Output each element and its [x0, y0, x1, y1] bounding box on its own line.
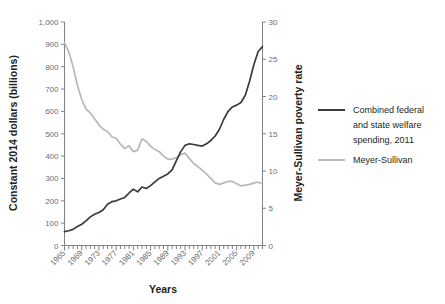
right-tick-label: 10 [269, 167, 278, 176]
x-tick-label: 1985 [135, 248, 154, 267]
x-tick-label: 2009 [238, 248, 257, 267]
chart-container: 01002003004005006007008009001,000 051015… [0, 0, 445, 304]
x-tick-label: 2005 [221, 248, 240, 267]
left-tick-label: 900 [45, 40, 59, 49]
x-tick-label: 1973 [83, 248, 102, 267]
series-line-meyer-sullivan [65, 43, 263, 186]
left-tick-label: 600 [45, 107, 59, 116]
x-tick-label: 2001 [203, 248, 222, 267]
right-tick-label: 25 [269, 55, 278, 64]
legend-label-welfare-spending-line-2: and state welfare [353, 120, 422, 130]
x-tick-label: 1969 [66, 248, 85, 267]
y2-axis-title: Meyer-Sullivan poverty rate [292, 64, 304, 201]
left-tick-label: 400 [45, 152, 59, 161]
left-tick-label: 500 [45, 130, 59, 139]
x-tick-label: 1965 [48, 248, 67, 267]
right-tick-label: 30 [269, 18, 278, 27]
left-tick-label: 0 [54, 242, 59, 251]
x-axis-title: Years [149, 283, 177, 295]
left-axis-ticks: 01002003004005006007008009001,000 [38, 18, 64, 251]
legend-label-meyer-sullivan: Meyer-Sullivan [353, 155, 413, 165]
right-axis-ticks: 051015202530 [263, 18, 278, 251]
y-axis-title: Constant 2014 dollars (billions) [7, 55, 19, 211]
legend-label-welfare-spending-line-3: spending, 2011 [353, 135, 414, 145]
series-line-welfare-spending [65, 47, 263, 232]
left-tick-label: 100 [45, 219, 59, 228]
x-tick-label: 1997 [186, 248, 205, 267]
right-tick-label: 20 [269, 93, 278, 102]
x-tick-label: 1977 [100, 248, 119, 267]
right-tick-label: 0 [269, 242, 274, 251]
right-tick-label: 5 [269, 204, 274, 213]
x-tick-label: 1989 [152, 248, 171, 267]
left-tick-label: 300 [45, 174, 59, 183]
right-tick-label: 15 [269, 130, 278, 139]
legend-label-welfare-spending-line-1: Combined federal [353, 105, 424, 115]
x-tick-label: 1993 [169, 248, 188, 267]
line-chart: 01002003004005006007008009001,000 051015… [0, 0, 445, 304]
left-tick-label: 800 [45, 63, 59, 72]
left-tick-label: 1,000 [38, 18, 59, 27]
x-tick-label: 1981 [117, 248, 136, 267]
x-axis-tick-labels: 1965196919731977198119851989199319972001… [48, 248, 257, 267]
left-tick-label: 200 [45, 197, 59, 206]
legend: Combined federal and state welfare spend… [318, 105, 424, 165]
left-tick-label: 700 [45, 85, 59, 94]
